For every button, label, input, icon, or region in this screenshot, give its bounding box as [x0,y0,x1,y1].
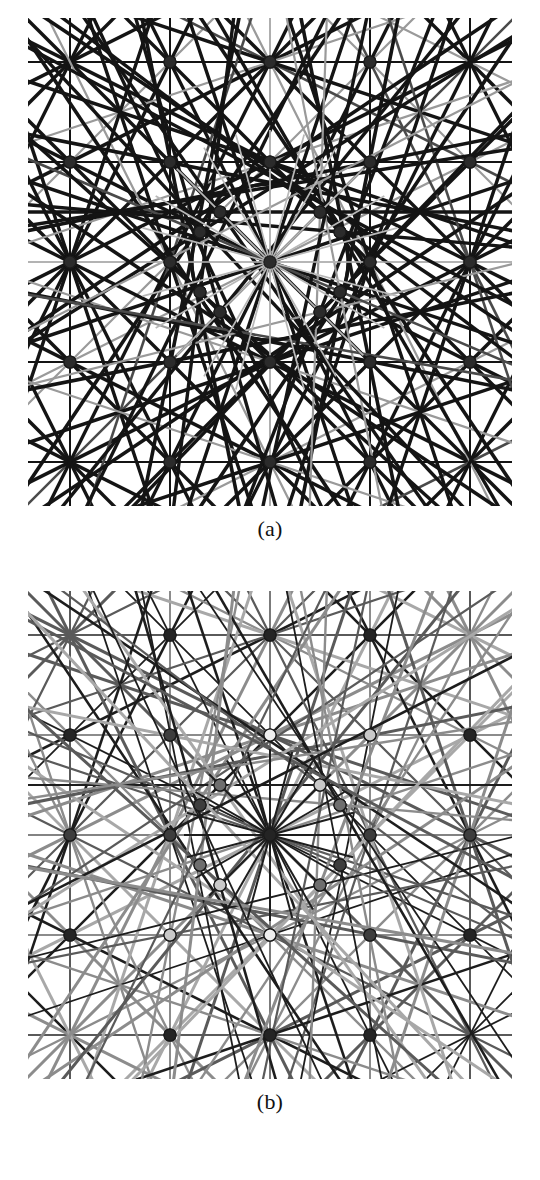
panel-b-caption: (b) [0,1089,540,1115]
panel-a-drawing [28,18,512,506]
arrangement-vertex [164,829,176,841]
arrangement-vertex [364,629,376,641]
arrangement-vertex [264,356,276,368]
panel-a-canvas [28,18,512,506]
arrangement-vertex [314,306,326,318]
figure-root: (a) (b) [0,0,540,1180]
arrangement-vertex [334,859,346,871]
arrangement-vertex [364,829,376,841]
arrangement-vertex [164,456,176,468]
arrangement-vertex [264,1029,276,1041]
arrangement-vertex [214,306,226,318]
arrangement-vertex [464,256,476,268]
arrangement-vertex [214,779,226,791]
arrangement-vertex [64,356,76,368]
figure-panel-b: (b) [0,575,540,1105]
figure-panel-a: (a) [0,0,540,570]
arrangement-vertex [194,859,206,871]
arrangement-vertex [194,226,206,238]
arrangement-vertex [264,729,276,741]
panel-b-canvas [28,591,512,1079]
arrangement-vertex [264,256,276,268]
arrangement-vertex [164,56,176,68]
arrangement-vertex [164,929,176,941]
arrangement-vertex [364,729,376,741]
cut-off-body-text [0,1160,540,1172]
arrangement-vertex [164,629,176,641]
arrangement-vertex [364,929,376,941]
arrangement-vertex [164,729,176,741]
arrangement-vertex [164,356,176,368]
arrangement-vertex [64,729,76,741]
arrangement-vertex [314,879,326,891]
panel-a-caption: (a) [0,516,540,542]
arrangement-vertex [334,226,346,238]
arrangement-vertex [264,456,276,468]
arrangement-vertex [214,206,226,218]
arrangement-vertex [164,256,176,268]
panel-b-drawing [28,591,512,1079]
arrangement-vertex [464,829,476,841]
arrangement-vertex [194,799,206,811]
arrangement-vertex [64,829,76,841]
arrangement-vertex [464,929,476,941]
arrangement-vertex [364,156,376,168]
arrangement-vertex [364,1029,376,1041]
arrangement-vertex [464,156,476,168]
arrangement-vertex [264,829,276,841]
arrangement-vertex [364,256,376,268]
arrangement-vertex [334,286,346,298]
arrangement-vertex [64,929,76,941]
arrangement-vertex [64,256,76,268]
arrangement-vertex [364,456,376,468]
arrangement-vertex [364,356,376,368]
arrangement-vertex [164,156,176,168]
arrangement-vertex [164,1029,176,1041]
arrangement-vertex [334,799,346,811]
arrangement-vertex [264,629,276,641]
arrangement-vertex [464,356,476,368]
arrangement-vertex [64,156,76,168]
arrangement-vertex [314,779,326,791]
arrangement-vertex [194,286,206,298]
arrangement-vertex [464,729,476,741]
arrangement-vertex [264,929,276,941]
arrangement-vertex [264,156,276,168]
arrangement-vertex [264,56,276,68]
arrangement-vertex [314,206,326,218]
arrangement-vertex [214,879,226,891]
arrangement-vertex [364,56,376,68]
